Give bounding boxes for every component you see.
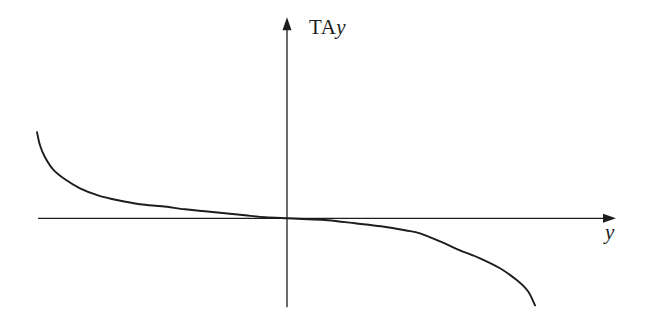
function-plot-figure: TAy y [0,0,647,326]
x-axis-label: y [605,222,615,243]
y-axis-arrowhead-icon [283,17,292,30]
y-axis-label: TAy [309,17,346,38]
plot-canvas [0,0,647,326]
y-axis-label-italic: y [336,15,346,39]
y-axis-label-roman: TA [309,15,336,39]
